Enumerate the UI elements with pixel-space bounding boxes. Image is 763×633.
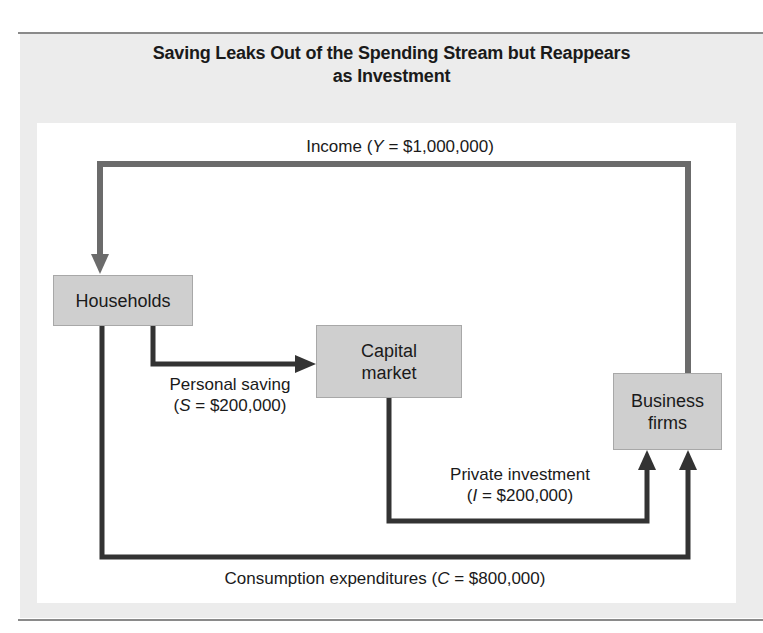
capital-market-box: Capital market	[316, 325, 462, 398]
consumption-suffix: = $800,000)	[449, 569, 545, 588]
arrowhead-down-icon	[91, 254, 109, 274]
arrowhead-up-icon	[638, 450, 656, 470]
investment-label-line1: Private investment	[430, 464, 610, 485]
capital-market-label-line2: market	[361, 362, 416, 384]
income-label-prefix: Income (	[306, 137, 372, 156]
saving-label-line1: Personal saving	[160, 374, 300, 395]
business-firms-box: Business firms	[613, 373, 722, 450]
consumption-label: Consumption expenditures (C = $800,000)	[170, 568, 600, 589]
consumption-symbol: C	[437, 569, 449, 588]
households-box: Households	[53, 275, 193, 326]
saving-suffix: = $200,000)	[191, 396, 287, 415]
arrowhead-right-icon	[295, 355, 316, 373]
business-firms-label-line2: firms	[648, 412, 687, 434]
investment-label: Private investment (I = $200,000)	[430, 464, 610, 506]
investment-suffix: = $200,000)	[477, 486, 573, 505]
income-label: Income (Y = $1,000,000)	[250, 136, 550, 157]
saving-label: Personal saving (S = $200,000)	[160, 374, 300, 416]
income-symbol: Y	[372, 137, 383, 156]
saving-symbol: S	[179, 396, 190, 415]
saving-label-line2: (S = $200,000)	[160, 395, 300, 416]
saving-arrow	[153, 326, 316, 373]
investment-label-line2: (I = $200,000)	[430, 485, 610, 506]
consumption-prefix: Consumption expenditures (	[225, 569, 438, 588]
arrowhead-up-icon	[679, 450, 697, 470]
income-label-suffix: = $1,000,000)	[384, 137, 494, 156]
capital-market-label-line1: Capital	[361, 340, 417, 362]
business-firms-label-line1: Business	[631, 390, 704, 412]
households-label: Households	[75, 290, 170, 312]
